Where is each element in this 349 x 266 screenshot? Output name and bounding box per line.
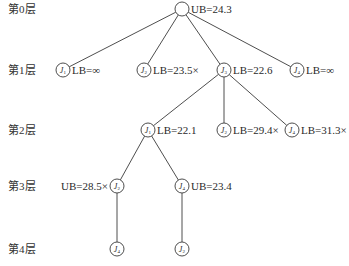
layer-label-3: 第3层 <box>8 180 36 192</box>
tree-node-l2-j1: J1 <box>141 123 155 137</box>
layer-label-2: 第2层 <box>8 124 36 136</box>
tree-node-l1-j4: J4 <box>290 63 304 77</box>
bound-label-l3-j2: UB=28.5× <box>61 180 108 192</box>
tree-node-l1-j2: J2 <box>137 63 151 77</box>
bound-label-l1-j1: LB=∞ <box>72 64 100 76</box>
tree-node-l4-j4: J4 <box>110 242 124 256</box>
tree-node-l2-j4: J4 <box>285 123 299 137</box>
tree-node-l1-j1: J1 <box>56 63 70 77</box>
layer-label-4: 第4层 <box>8 243 36 255</box>
bound-label-root: UB=24.3 <box>191 3 232 15</box>
layer-label-1: 第1层 <box>8 64 36 76</box>
edge-root-to-l1-j4 <box>188 12 291 66</box>
bound-label-l3-j4: UB=23.4 <box>191 180 232 192</box>
bound-label-l1-j2: LB=23.5× <box>153 64 199 76</box>
edge-l2-j1-to-l3-j4 <box>152 136 179 180</box>
edge-root-to-l1-j1 <box>69 12 176 67</box>
bound-label-l2-j4: LB=31.3× <box>301 124 347 136</box>
bound-label-l1-j3: LB=22.6 <box>233 64 273 76</box>
tree-node-l1-j3: J3 <box>217 63 231 77</box>
edge-l1-j3-to-l2-j4 <box>229 75 287 126</box>
edge-root-to-l1-j3 <box>186 15 220 64</box>
tree-node-l3-j4: J4 <box>175 179 189 193</box>
bound-label-l2-j2: LB=29.4× <box>233 124 279 136</box>
tree-node-l2-j2: J2 <box>217 123 231 137</box>
bound-label-l2-j1: LB=22.1 <box>157 124 197 136</box>
tree-node-l3-j2: J2 <box>110 179 124 193</box>
node-circle <box>175 2 189 16</box>
tree-node-root <box>175 2 189 16</box>
bound-label-l1-j4: LB=∞ <box>306 64 334 76</box>
edge-l2-j1-to-l3-j2 <box>120 136 144 180</box>
layer-label-0: 第0层 <box>8 3 36 15</box>
edge-root-to-l1-j2 <box>148 15 179 64</box>
edge-l1-j3-to-l2-j1 <box>153 74 218 125</box>
tree-node-l4-j2: J2 <box>175 242 189 256</box>
